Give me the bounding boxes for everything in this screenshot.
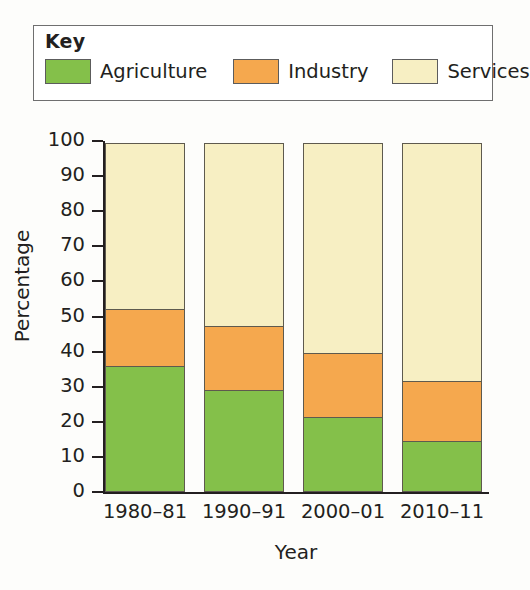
- bar-segment-services[interactable]: [105, 143, 185, 310]
- bar-segment-services[interactable]: [402, 143, 482, 382]
- y-tick-label: 40: [33, 339, 85, 362]
- y-axis-title: Percentage: [10, 206, 34, 366]
- y-tick-mark: [92, 316, 103, 318]
- y-tick-label: 80: [33, 198, 85, 221]
- y-tick-mark: [92, 351, 103, 353]
- y-tick-mark: [92, 210, 103, 212]
- bar-segment-industry[interactable]: [105, 309, 185, 367]
- y-tick-label: 0: [33, 479, 85, 502]
- bar-segment-agriculture[interactable]: [303, 417, 383, 492]
- bar-segment-services[interactable]: [303, 143, 383, 354]
- y-tick-label: 50: [33, 304, 85, 327]
- y-tick-label: 30: [33, 374, 85, 397]
- y-tick-mark: [92, 491, 103, 493]
- y-tick-label: 100: [33, 128, 85, 151]
- bar-segment-services[interactable]: [204, 143, 284, 327]
- bar-segment-agriculture[interactable]: [204, 390, 284, 492]
- y-tick-mark: [92, 456, 103, 458]
- y-tick-label: 60: [33, 268, 85, 291]
- y-tick-label: 90: [33, 163, 85, 186]
- y-tick-label: 20: [33, 409, 85, 432]
- y-tick-label: 70: [33, 233, 85, 256]
- bar-stack[interactable]: [204, 141, 284, 492]
- bar-segment-agriculture[interactable]: [402, 441, 482, 492]
- bar-group: [105, 141, 489, 492]
- y-tick-mark: [92, 245, 103, 247]
- y-tick-mark: [92, 175, 103, 177]
- x-axis-title: Year: [104, 540, 488, 564]
- y-tick-mark: [92, 140, 103, 142]
- y-tick-mark: [92, 280, 103, 282]
- x-tick-label: 2010–11: [384, 500, 500, 523]
- bar-segment-agriculture[interactable]: [105, 366, 185, 492]
- y-tick-label: 10: [33, 444, 85, 467]
- bar-segment-industry[interactable]: [402, 381, 482, 442]
- y-tick-mark: [92, 421, 103, 423]
- bar-segment-industry[interactable]: [303, 353, 383, 418]
- bar-stack[interactable]: [402, 141, 482, 492]
- bar-segment-industry[interactable]: [204, 326, 284, 391]
- bar-stack[interactable]: [105, 141, 185, 492]
- x-axis-line: [103, 492, 489, 494]
- bar-stack[interactable]: [303, 141, 383, 492]
- y-tick-mark: [92, 386, 103, 388]
